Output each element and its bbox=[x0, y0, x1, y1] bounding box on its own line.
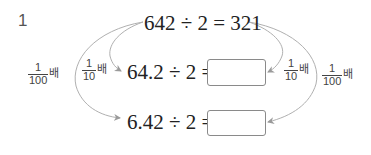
middle-equation: 64.2 ÷ 2 = bbox=[127, 62, 213, 83]
bottom-answer-box[interactable] bbox=[207, 110, 266, 136]
bottom-equation: 6.42 ÷ 2 = bbox=[127, 112, 213, 133]
label-left-inner: 1 10 배 bbox=[82, 58, 107, 82]
label-right-outer: 1 100 배 bbox=[322, 63, 353, 87]
top-equation: 642 ÷ 2 = 321 bbox=[144, 13, 262, 34]
label-left-outer: 1 100 배 bbox=[28, 62, 59, 86]
fraction: 1 100 bbox=[322, 63, 342, 87]
label-right-inner: 1 10 배 bbox=[284, 58, 309, 82]
fraction: 1 10 bbox=[284, 58, 298, 82]
fraction: 1 100 bbox=[28, 62, 48, 86]
middle-answer-box[interactable] bbox=[207, 59, 266, 86]
fraction: 1 10 bbox=[82, 58, 96, 82]
